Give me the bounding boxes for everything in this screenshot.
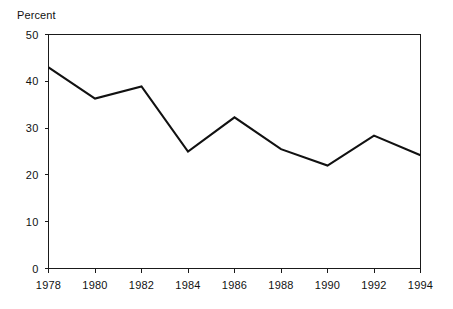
x-tick-label: 1988 (268, 279, 293, 291)
x-tick-label: 1992 (361, 279, 386, 291)
line-chart-plot: 01020304050 1978198019821984198619881990… (0, 0, 453, 309)
x-axis-ticks: 197819801982198419861988199019921994 (36, 269, 433, 291)
x-tick-label: 1994 (408, 279, 433, 291)
y-tick-label: 10 (26, 216, 39, 228)
x-tick-label: 1978 (36, 279, 61, 291)
x-tick-label: 1982 (129, 279, 154, 291)
x-tick-label: 1986 (222, 279, 247, 291)
x-tick-label: 1984 (175, 279, 200, 291)
y-tick-label: 20 (26, 169, 39, 181)
chart-container: Percent 01020304050 19781980198219841986… (0, 0, 453, 309)
y-tick-label: 30 (26, 122, 39, 134)
plot-frame (49, 35, 421, 269)
x-tick-label: 1980 (82, 279, 107, 291)
x-tick-label: 1990 (315, 279, 340, 291)
y-tick-label: 40 (26, 75, 39, 87)
y-axis-ticks: 01020304050 (26, 29, 49, 275)
y-tick-label: 50 (26, 29, 39, 41)
y-tick-label: 0 (32, 263, 38, 275)
data-series-line (49, 67, 421, 165)
